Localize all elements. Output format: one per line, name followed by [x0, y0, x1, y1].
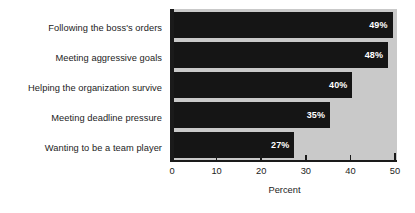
x-tick-label-0: 0	[169, 166, 174, 177]
bar-value-label-0: 49%	[369, 20, 387, 30]
x-tick-30	[305, 155, 307, 161]
x-tick-0	[171, 153, 173, 161]
category-label-0: Following the boss's orders	[0, 23, 162, 34]
x-tick-label-30: 30	[301, 166, 311, 177]
x-axis-line	[172, 160, 397, 162]
x-tick-label-50: 50	[390, 166, 400, 177]
x-tick-label-10: 10	[211, 166, 221, 177]
x-tick-label-20: 20	[256, 166, 266, 177]
bar-value-label-2: 40%	[329, 80, 347, 90]
category-label-1: Meeting aggressive goals	[0, 53, 162, 64]
bar-4: 27%	[174, 132, 294, 158]
category-label-2: Helping the organization survive	[0, 83, 162, 94]
x-tick-40	[350, 155, 352, 161]
x-axis-title: Percent	[172, 185, 397, 196]
bar-0: 49%	[174, 12, 393, 38]
bars-container: 49% 48% 40% 35% 27%	[174, 9, 397, 160]
category-label-3: Meeting deadline pressure	[0, 113, 162, 124]
y-axis-line	[170, 9, 172, 162]
bar-value-label-4: 27%	[271, 140, 289, 150]
bar-value-label-1: 48%	[365, 50, 383, 60]
bar-chart: Following the boss's orders Meeting aggr…	[0, 0, 415, 213]
x-tick-20	[260, 155, 262, 161]
category-label-4: Wanting to be a team player	[0, 143, 162, 154]
category-axis-labels: Following the boss's orders Meeting aggr…	[0, 9, 168, 160]
bar-value-label-3: 35%	[307, 110, 325, 120]
x-tick-50	[394, 153, 396, 161]
x-tick-label-40: 40	[345, 166, 355, 177]
bar-1: 48%	[174, 42, 388, 68]
bar-2: 40%	[174, 72, 352, 98]
x-tick-10	[216, 155, 218, 161]
plot-area: 49% 48% 40% 35% 27%	[172, 9, 397, 160]
bar-3: 35%	[174, 102, 330, 128]
